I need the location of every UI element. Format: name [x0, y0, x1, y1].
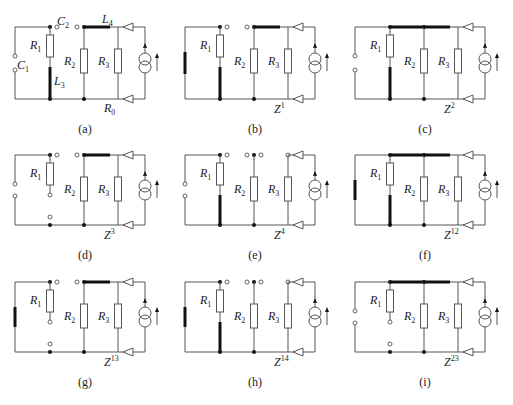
z-label: Z3: [104, 228, 115, 241]
r3-label: R3: [98, 55, 109, 70]
r1-label: R1: [30, 39, 41, 54]
r1-label: R1: [200, 39, 211, 54]
panel-caption: (i): [405, 376, 445, 388]
circuit-panel-d: R1R2R3Z3(d): [0, 135, 171, 270]
r3-label: R3: [438, 310, 449, 325]
r3-label: R3: [98, 183, 109, 198]
circuit-panel-i: R1R2R3Z23(i): [340, 270, 511, 405]
panel-caption: (e): [235, 249, 275, 261]
r2-label: R2: [234, 55, 245, 70]
r2-label: R2: [64, 183, 75, 198]
r3-label: R3: [438, 183, 449, 198]
z-label: Z13: [104, 355, 119, 368]
r2-label: R2: [404, 310, 415, 325]
r1-label: R1: [370, 39, 381, 54]
r2-label: R2: [64, 55, 75, 70]
circuit-panel-g: R1R2R3Z13(g): [0, 270, 171, 405]
r3-label: R3: [268, 55, 279, 70]
r1-label: R1: [30, 294, 41, 309]
l4-label: L4: [102, 13, 113, 28]
circuit-panel-a: R1R2R3C1C2L3L4R0(a): [0, 0, 171, 135]
circuit-schematic: [340, 0, 511, 135]
circuit-panel-e: R1R2R3Z4(e): [170, 135, 341, 270]
r1-label: R1: [200, 294, 211, 309]
z-label: Z4: [274, 228, 285, 241]
circuit-schematic: [170, 0, 341, 135]
circuit-panel-h: R1R2R3Z14(h): [170, 270, 341, 405]
l3-label: L3: [54, 75, 65, 90]
r2-label: R2: [64, 310, 75, 325]
r0-label: R0: [104, 102, 115, 117]
r3-label: R3: [268, 183, 279, 198]
z-label: Z1: [274, 102, 285, 115]
r2-label: R2: [404, 183, 415, 198]
circuit-panel-f: R1R2R3Z12(f): [340, 135, 511, 270]
r3-label: R3: [268, 310, 279, 325]
r1-label: R1: [370, 167, 381, 182]
panel-caption: (c): [405, 123, 445, 135]
c1-label: C1: [17, 59, 29, 74]
panel-caption: (f): [405, 249, 445, 261]
r1-label: R1: [30, 167, 41, 182]
z-label: Z23: [444, 355, 459, 368]
panel-caption: (h): [235, 376, 275, 388]
panel-caption: (d): [65, 249, 105, 261]
panel-caption: (g): [65, 376, 105, 388]
z-label: Z2: [444, 102, 455, 115]
circuit-panel-b: R1R2R3Z1(b): [170, 0, 341, 135]
r1-label: R1: [370, 294, 381, 309]
c2-label: C2: [57, 15, 69, 30]
panel-caption: (a): [65, 123, 105, 135]
z-label: Z12: [444, 228, 459, 241]
r2-label: R2: [234, 183, 245, 198]
r2-label: R2: [404, 55, 415, 70]
z-label: Z14: [274, 355, 289, 368]
panel-caption: (b): [235, 123, 275, 135]
r3-label: R3: [98, 310, 109, 325]
r3-label: R3: [438, 55, 449, 70]
r1-label: R1: [200, 167, 211, 182]
r2-label: R2: [234, 310, 245, 325]
circuit-panel-c: R1R2R3Z2(c): [340, 0, 511, 135]
